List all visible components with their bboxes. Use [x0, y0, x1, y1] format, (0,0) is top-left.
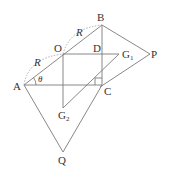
label-q: Q	[58, 154, 66, 166]
segment-g1-g2	[63, 54, 119, 108]
label-d: D	[93, 42, 101, 54]
label-g1: G1	[122, 48, 134, 62]
label-o: O	[54, 42, 62, 54]
label-b: B	[97, 11, 104, 23]
geometry-diagram: A B C O D G1 G2 P Q R R θ	[0, 0, 170, 175]
label-p: P	[151, 48, 157, 60]
angle-arc-theta	[34, 78, 37, 85]
label-c: C	[104, 85, 111, 97]
right-angle-marker	[95, 78, 102, 85]
label-a: A	[13, 80, 21, 92]
label-g2: G2	[58, 109, 70, 123]
label-theta: θ	[38, 74, 43, 84]
label-radius-1: R	[33, 56, 41, 68]
label-radius-2: R	[75, 26, 83, 38]
